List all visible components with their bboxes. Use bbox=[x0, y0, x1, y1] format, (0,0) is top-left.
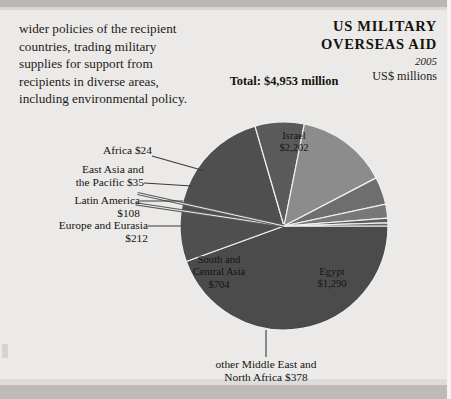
callout-east-asia-line1: East Asia and bbox=[14, 163, 144, 176]
slice-label-israel: Israel $2,202 bbox=[262, 130, 326, 155]
slice-label-israel-value: $2,202 bbox=[262, 142, 326, 154]
slice-label-egypt: Egypt $1,290 bbox=[300, 266, 364, 291]
callout-africa-text: Africa $24 bbox=[40, 144, 152, 157]
callout-africa: Africa $24 bbox=[40, 144, 152, 157]
slice-label-sca-line1: South and bbox=[172, 254, 266, 266]
slice-label-south-central-asia: South and Central Asia $704 bbox=[172, 254, 266, 291]
slice-label-sca-value: $704 bbox=[172, 279, 266, 291]
callout-east-asia-line2: the Pacific $35 bbox=[14, 176, 144, 189]
callout-europe-line1: Europe and Eurasia bbox=[8, 219, 148, 232]
leader-line-africa bbox=[152, 156, 205, 171]
slice-label-egypt-value: $1,290 bbox=[300, 278, 364, 290]
callout-other-mena-line1: other Middle East and bbox=[176, 358, 356, 371]
slice-label-sca-line2: Central Asia bbox=[172, 266, 266, 278]
leader-line-east-asia bbox=[144, 183, 192, 186]
callout-latin-america: Latin America $108 bbox=[14, 194, 140, 221]
callout-east-asia-pacific: East Asia and the Pacific $35 bbox=[14, 163, 144, 190]
slice-label-egypt-name: Egypt bbox=[300, 266, 364, 278]
page-canvas: wider policies of the recipient countrie… bbox=[0, 0, 451, 399]
callout-latin-line1: Latin America bbox=[14, 194, 140, 207]
callout-europe-eurasia: Europe and Eurasia $212 bbox=[8, 219, 148, 246]
callout-europe-line2: $212 bbox=[8, 232, 148, 245]
callout-other-middle-east: other Middle East and North Africa $378 bbox=[176, 358, 356, 385]
callout-other-mena-line2: North Africa $378 bbox=[176, 371, 356, 384]
slice-label-israel-name: Israel bbox=[262, 130, 326, 142]
